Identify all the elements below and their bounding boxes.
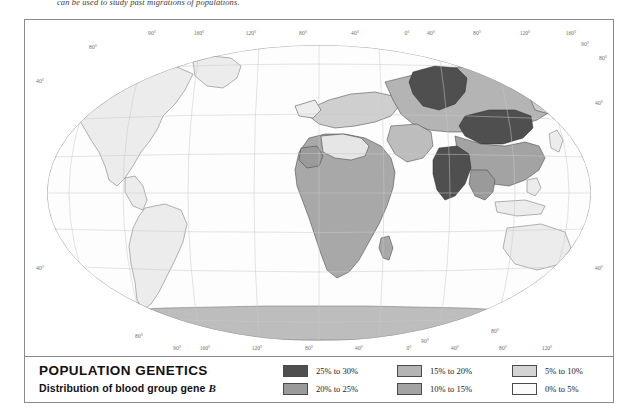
lat-label-bottom-80w: 80° <box>135 333 143 339</box>
legend-entry: 10% to 15% <box>397 381 472 396</box>
legend-label-0-5: 0% to 5% <box>545 384 579 394</box>
legend-entry: 25% to 30% <box>283 363 358 378</box>
legend-swatch-25-30 <box>283 365 308 377</box>
figure-frame: 160° 120° 80° 40° 0° 40° 80° 120° 160° 9… <box>24 19 614 403</box>
lon-label-top-0: 0° <box>404 30 409 36</box>
legend-entry: 20% to 25% <box>283 381 358 396</box>
legend-swatch-15-20 <box>397 365 422 377</box>
lat-label-right-40s: 40° <box>595 265 603 271</box>
legend-subtitle: Distribution of blood group gene B <box>39 381 216 396</box>
lon-label-bottom-80: 80° <box>305 345 313 351</box>
lon-label-top-120: 120° <box>246 30 257 36</box>
lon-label-bottom-40: 40° <box>355 345 363 351</box>
lon-label-bottom-80e: 80° <box>499 345 507 351</box>
legend-column-3: 5% to 10% 0% to 5% <box>512 363 583 399</box>
lon-label-bottom-0: 0° <box>406 345 411 351</box>
lon-label-bottom-40e: 40° <box>451 345 459 351</box>
legend-label-5-10: 5% to 10% <box>545 366 583 376</box>
lon-label-bottom-120e: 120° <box>542 345 553 351</box>
figure-caption-text: can be used to study past migrations of … <box>57 0 240 7</box>
world-map-plate: 160° 120° 80° 40° 0° 40° 80° 120° 160° 9… <box>25 20 613 354</box>
legend-subtitle-gene: B <box>209 382 216 394</box>
lon-label-top-160e: 160° <box>566 30 577 36</box>
legend-label-15-20: 15% to 20% <box>430 366 472 376</box>
legend-entry: 5% to 10% <box>512 363 583 378</box>
legend-entry: 15% to 20% <box>397 363 472 378</box>
legend-subtitle-text: Distribution of blood group gene <box>39 382 209 394</box>
lat-label-top-80w: 80° <box>89 44 97 50</box>
legend-label-10-15: 10% to 15% <box>430 384 472 394</box>
legend-title: POPULATION GENETICS <box>39 363 216 379</box>
legend-column-1: 25% to 30% 20% to 25% <box>283 363 358 399</box>
lat-label-bottom-80e: 80° <box>491 328 499 334</box>
legend-label-20-25: 20% to 25% <box>316 384 358 394</box>
legend-swatch-10-15 <box>397 383 422 395</box>
lon-label-top-40e: 40° <box>427 30 435 36</box>
lon-label-top-160: 160° <box>194 30 205 36</box>
lon-label-bottom-160: 160° <box>200 345 211 351</box>
world-map-graphic: 160° 120° 80° 40° 0° 40° 80° 120° 160° 9… <box>25 20 613 354</box>
legend-entry: 0% to 5% <box>512 381 583 396</box>
lat-label-top-90w: 90° <box>148 30 156 36</box>
lat-label-top-90e: 90° <box>581 41 589 47</box>
lon-label-top-80: 80° <box>299 30 307 36</box>
legend-column-2: 15% to 20% 10% to 15% <box>397 363 472 399</box>
lat-label-top-80e: 80° <box>599 55 607 61</box>
legend-swatch-5-10 <box>512 365 537 377</box>
lon-label-bottom-120: 120° <box>252 345 263 351</box>
lat-label-left-40n: 40° <box>36 78 44 84</box>
legend-swatch-20-25 <box>283 383 308 395</box>
legend-title-group: POPULATION GENETICS Distribution of bloo… <box>39 363 216 396</box>
lon-label-top-40: 40° <box>351 30 359 36</box>
lon-label-top-80e: 80° <box>473 30 481 36</box>
lat-label-left-40s: 40° <box>36 265 44 271</box>
legend-block: POPULATION GENETICS Distribution of bloo… <box>25 357 613 402</box>
legend-label-25-30: 25% to 30% <box>316 366 358 376</box>
lat-label-right-40n: 40° <box>595 100 603 106</box>
lat-label-bottom-90w: 90° <box>173 345 181 351</box>
legend-swatch-0-5 <box>512 383 537 395</box>
lat-label-bottom-90e: 90° <box>421 338 429 344</box>
lon-label-top-120e: 120° <box>520 30 531 36</box>
